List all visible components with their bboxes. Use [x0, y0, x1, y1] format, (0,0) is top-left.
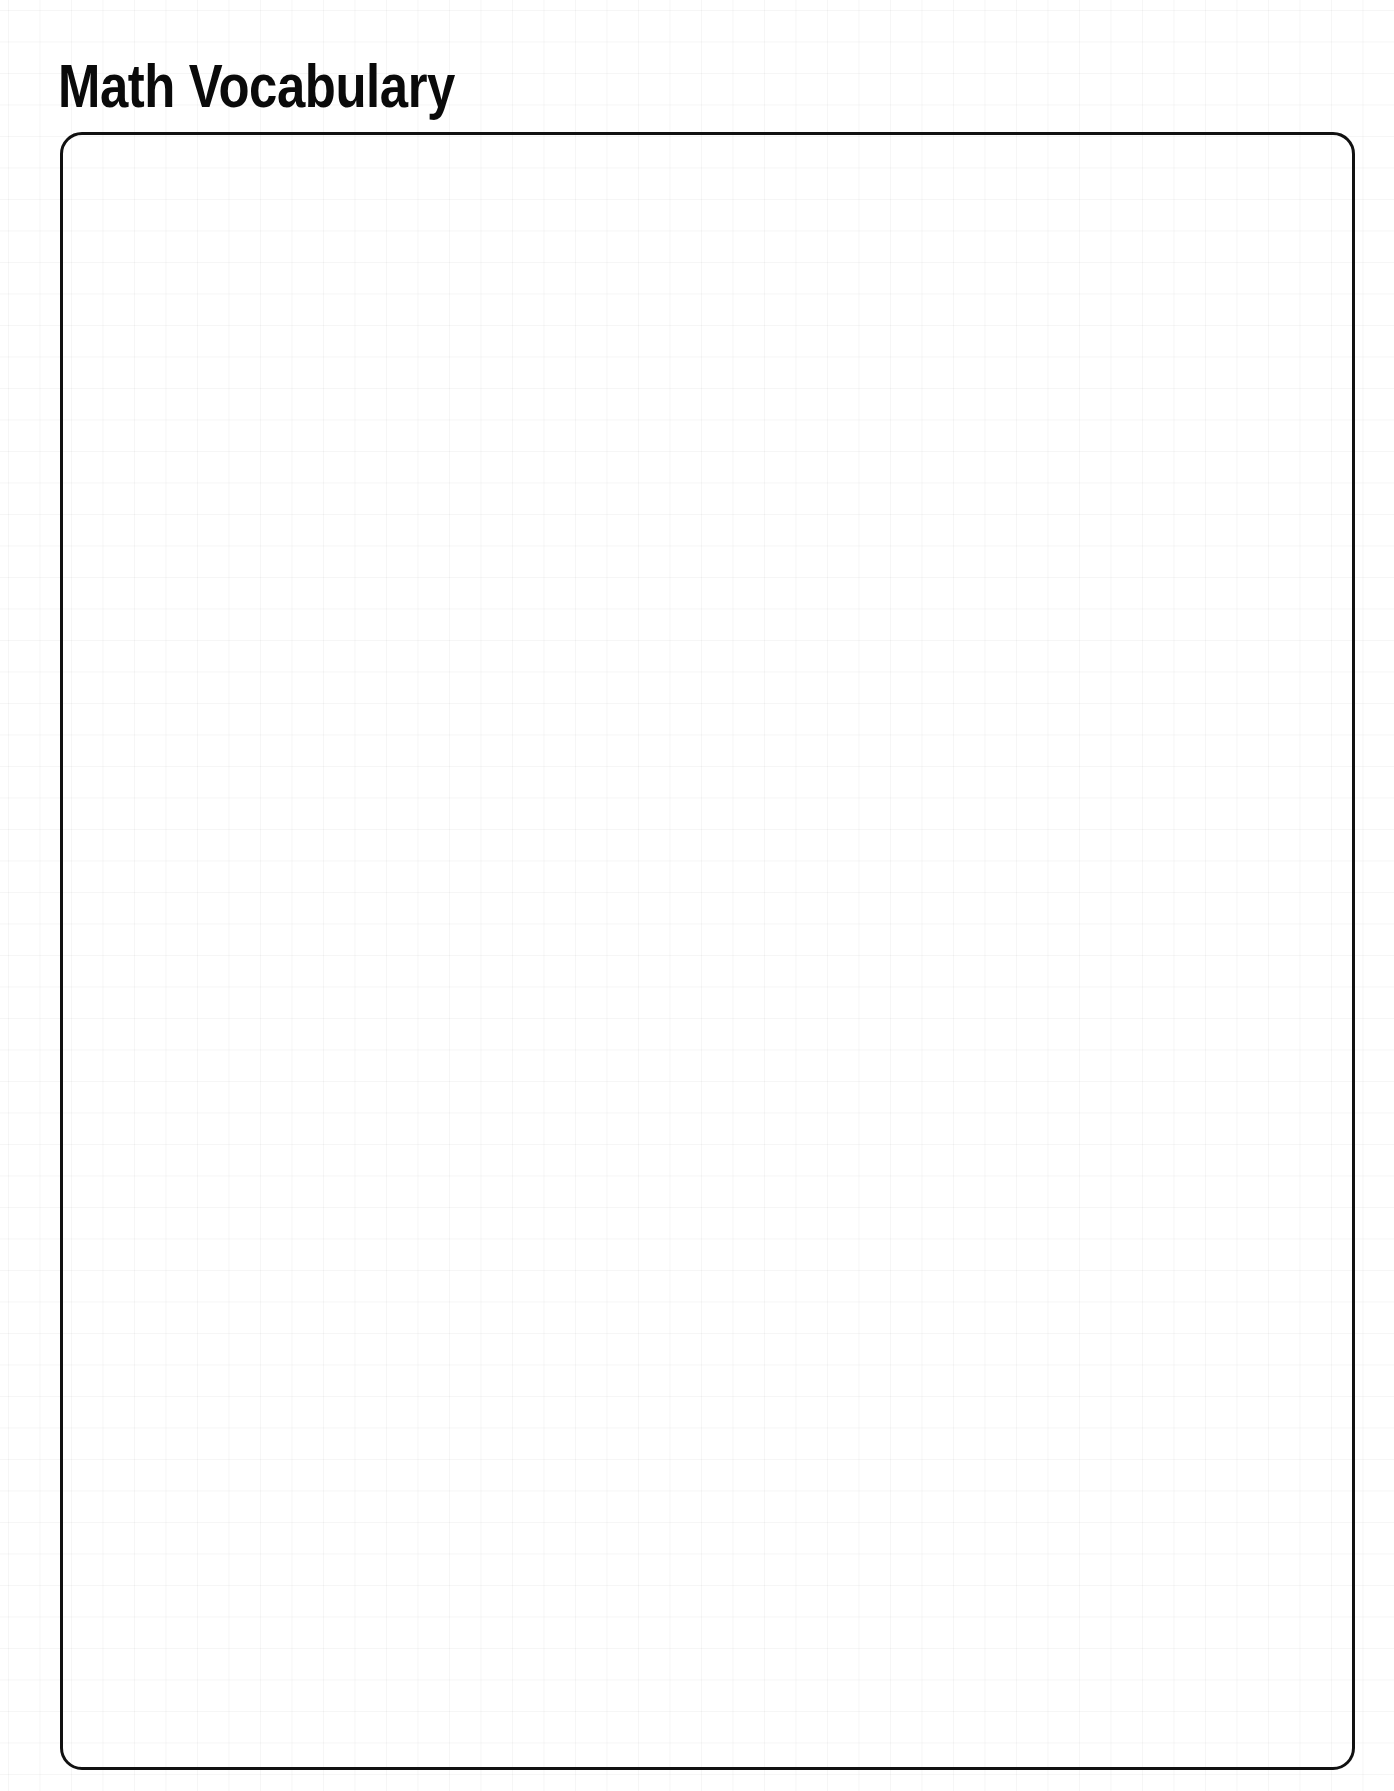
page-title: Math Vocabulary: [58, 50, 455, 122]
writing-area-box[interactable]: [60, 132, 1355, 1770]
